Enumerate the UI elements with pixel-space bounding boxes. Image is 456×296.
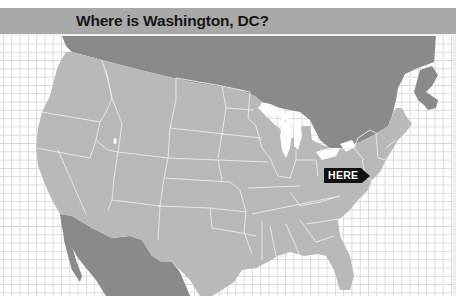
top-margin — [0, 0, 456, 8]
title-bar: Where is Washington, DC? — [0, 8, 456, 36]
washington-dc-marker: HERE — [324, 168, 370, 183]
canada-maritime-region — [414, 66, 438, 110]
marker-label: HERE — [324, 168, 362, 183]
great-salt-lake — [114, 138, 117, 144]
page-title: Where is Washington, DC? — [76, 12, 269, 30]
north-america-map — [0, 0, 456, 296]
arrow-right-icon — [362, 169, 370, 183]
